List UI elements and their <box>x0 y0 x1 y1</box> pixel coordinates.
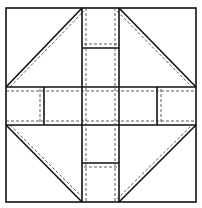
seam-lines <box>6 8 196 202</box>
grid-lines <box>6 8 196 202</box>
corner-diagonals <box>6 8 196 202</box>
quilt-block-diagram <box>0 0 202 208</box>
block-outline <box>6 8 196 202</box>
